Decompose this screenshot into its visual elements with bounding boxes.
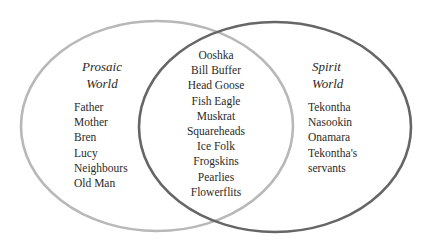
spirit-world-list: Tekontha Nasookin Onamara Tekontha's ser… xyxy=(308,100,357,176)
list-item: Ooshka xyxy=(152,48,280,63)
list-item: Mother xyxy=(74,115,128,130)
list-item: Head Goose xyxy=(152,78,280,93)
list-item: Flowerflits xyxy=(152,185,280,200)
title-line: World xyxy=(82,75,122,92)
list-item: Muskrat xyxy=(152,109,280,124)
list-item: Tekontha xyxy=(308,100,357,115)
title-line: Prosaic xyxy=(82,58,122,75)
list-item: Tekontha's xyxy=(308,146,357,161)
list-item: Neighbours xyxy=(74,161,128,176)
prosaic-world-title: Prosaic World xyxy=(82,58,122,92)
title-line: World xyxy=(312,75,343,92)
list-item: Pearlies xyxy=(152,170,280,185)
list-item: Bren xyxy=(74,130,128,145)
list-item: Father xyxy=(74,100,128,115)
spirit-world-title: Spirit World xyxy=(312,58,343,92)
list-item: Squareheads xyxy=(152,124,280,139)
list-item: Fish Eagle xyxy=(152,94,280,109)
title-line: Spirit xyxy=(312,58,343,75)
list-item: Old Man xyxy=(74,176,128,191)
list-item: Onamara xyxy=(308,130,357,145)
list-item: Bill Buffer xyxy=(152,63,280,78)
list-item: servants xyxy=(308,161,357,176)
list-item: Lucy xyxy=(74,146,128,161)
list-item: Frogskins xyxy=(152,154,280,169)
list-item: Ice Folk xyxy=(152,139,280,154)
intersection-list: Ooshka Bill Buffer Head Goose Fish Eagle… xyxy=(152,48,280,200)
list-item: Nasookin xyxy=(308,115,357,130)
prosaic-world-list: Father Mother Bren Lucy Neighbours Old M… xyxy=(74,100,128,191)
